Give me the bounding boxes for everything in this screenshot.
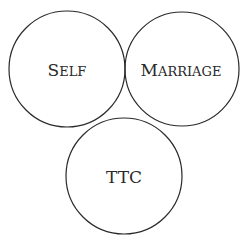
label-marriage: MARRIAGE — [141, 60, 222, 80]
label-ttc: TTC — [106, 167, 142, 187]
label-self: SELF — [48, 60, 87, 80]
diagram-canvas: SELF MARRIAGE TTC — [0, 0, 247, 242]
